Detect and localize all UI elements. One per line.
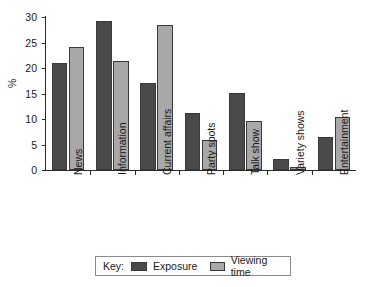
bar <box>185 113 201 170</box>
legend-item-exposure: Exposure <box>131 260 197 272</box>
x-tick-label: Variety shows <box>295 110 306 175</box>
x-tick-label: Talk show <box>250 129 261 175</box>
y-tick <box>42 17 46 18</box>
legend-label-viewing-time: Viewing time <box>231 254 283 278</box>
x-tick-label: Party spots <box>206 122 217 175</box>
y-tick-label: 15 <box>0 88 37 100</box>
x-tick-label: Entertainment <box>339 110 350 175</box>
bar <box>273 159 289 170</box>
legend-swatch-viewing-time <box>210 262 224 271</box>
bar <box>318 137 334 170</box>
x-tick <box>135 171 136 175</box>
legend-swatch-exposure <box>131 262 147 271</box>
x-tick <box>312 171 313 175</box>
x-tick <box>90 171 91 175</box>
y-tick-label: 30 <box>0 11 37 23</box>
y-tick <box>42 43 46 44</box>
plot-area <box>46 17 356 170</box>
x-axis-line <box>45 170 356 171</box>
bar <box>140 83 156 170</box>
y-tick-label: 10 <box>0 113 37 125</box>
y-tick-label: 0 <box>0 164 37 176</box>
legend-label-exposure: Exposure <box>153 260 197 272</box>
y-tick <box>42 119 46 120</box>
y-tick <box>42 68 46 69</box>
legend-title: Key: <box>103 260 124 272</box>
x-tick-label: Information <box>117 122 128 175</box>
x-tick-label: News <box>73 149 84 175</box>
legend: Key: Exposure Viewing time <box>95 256 291 276</box>
y-tick <box>42 170 46 171</box>
x-tick <box>223 171 224 175</box>
x-tick <box>267 171 268 175</box>
x-tick <box>179 171 180 175</box>
y-tick <box>42 145 46 146</box>
bar-group <box>52 17 85 170</box>
legend-item-viewing-time: Viewing time <box>210 254 283 278</box>
bar <box>52 63 68 170</box>
y-tick-label: 25 <box>0 37 37 49</box>
bar <box>96 21 112 170</box>
bar <box>229 93 245 170</box>
y-tick-label: 5 <box>0 139 37 151</box>
x-tick-label: Current affairs <box>162 109 173 175</box>
y-tick <box>42 94 46 95</box>
y-tick-label: 20 <box>0 62 37 74</box>
bar-chart: % 051015202530 NewsInformationCurrent af… <box>0 0 373 287</box>
